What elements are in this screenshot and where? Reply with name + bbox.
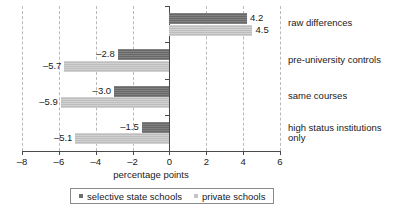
legend-item-private-schools: private schools <box>194 191 265 202</box>
x-axis-title: percentage points <box>22 169 280 180</box>
x-tick--4 <box>96 151 97 155</box>
bar-same-courses-selective-state <box>114 86 169 97</box>
bar-label-pre-university-controls-private: –5.7 <box>24 60 61 71</box>
category-label-line2: only <box>288 133 400 144</box>
category-label-pre-university-controls: pre-university controls <box>288 55 400 66</box>
x-tick-label--2: –2 <box>118 156 148 167</box>
bar-raw-differences-private <box>169 25 252 36</box>
category-label-same-courses: same courses <box>288 91 400 102</box>
bar-pre-university-controls-private <box>64 61 169 72</box>
bar-pre-university-controls-selective-state <box>118 49 170 60</box>
x-tick--6 <box>59 151 60 155</box>
bar-label-raw-differences-private: 4.5 <box>256 24 269 35</box>
x-tick-6 <box>280 151 281 155</box>
bar-chart: 4.2 4.5 –2.8 –5.7 –3.0 –5.9 –1.5 –5.1 –8… <box>0 0 403 211</box>
category-label-line1: pre-university controls <box>288 55 400 66</box>
category-label-high-status-institutions-only: high status institutions only <box>288 123 400 144</box>
x-tick-4 <box>243 151 244 155</box>
y-tick-0 <box>165 6 169 7</box>
legend-swatch-icon-selective-state-schools <box>79 194 83 198</box>
x-tick-label-4: 4 <box>228 156 258 167</box>
legend-swatch-icon-private-schools <box>194 194 198 198</box>
bar-label-same-courses-selective-state: –3.0 <box>74 85 111 96</box>
y-tick-1 <box>165 42 169 43</box>
legend: selective state schools private schools <box>70 188 274 204</box>
gridline-6 <box>280 6 281 151</box>
bar-same-courses-private <box>61 97 170 108</box>
bar-label-high-status-institutions-selective-state: –1.5 <box>102 121 139 132</box>
gridline--4 <box>96 6 97 151</box>
bar-raw-differences-selective-state <box>169 13 246 24</box>
legend-label-private-schools: private schools <box>202 191 265 202</box>
x-tick-0 <box>169 151 170 155</box>
x-tick-label-2: 2 <box>191 156 221 167</box>
bar-label-raw-differences-selective-state: 4.2 <box>250 12 263 23</box>
bar-label-pre-university-controls-selective-state: –2.8 <box>78 48 115 59</box>
plot-area: 4.2 4.5 –2.8 –5.7 –3.0 –5.9 –1.5 –5.1 <box>22 6 280 151</box>
bar-label-high-status-institutions-private: –5.1 <box>35 132 72 143</box>
x-tick-label--4: –4 <box>81 156 111 167</box>
x-tick-label--6: –6 <box>44 156 74 167</box>
x-tick--8 <box>22 151 23 155</box>
category-label-raw-differences: raw differences <box>288 18 400 29</box>
x-tick-label-0: 0 <box>154 156 184 167</box>
x-tick-2 <box>206 151 207 155</box>
gridline--8 <box>22 6 23 151</box>
x-axis-line <box>22 151 280 152</box>
legend-label-selective-state-schools: selective state schools <box>87 191 182 202</box>
x-tick-label-6: 6 <box>265 156 295 167</box>
legend-item-selective-state-schools: selective state schools <box>79 191 182 202</box>
x-tick--2 <box>133 151 134 155</box>
gridline--6 <box>59 6 60 151</box>
category-label-line1: same courses <box>288 91 400 102</box>
bar-label-same-courses-private: –5.9 <box>21 96 58 107</box>
bar-high-status-institutions-private <box>75 133 169 144</box>
y-tick-3 <box>165 115 169 116</box>
y-tick-2 <box>165 79 169 80</box>
category-label-line1: raw differences <box>288 18 400 29</box>
x-tick-label--8: –8 <box>7 156 37 167</box>
bar-high-status-institutions-selective-state <box>142 122 170 133</box>
